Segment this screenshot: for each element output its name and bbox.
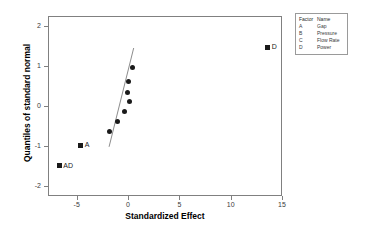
legend-row: CFlow Rate <box>299 37 344 44</box>
data-point <box>122 109 127 114</box>
legend-header-name: Name <box>317 16 344 23</box>
x-tick-label: 15 <box>270 201 294 208</box>
data-point-label: A <box>85 141 90 148</box>
y-axis-title: Quantiles of standard normal <box>22 13 32 193</box>
data-point-label: D <box>272 43 277 50</box>
x-tick <box>179 196 180 200</box>
x-tick <box>282 196 283 200</box>
legend-factor-name: Gap <box>317 23 344 30</box>
x-tick-label: -5 <box>65 201 89 208</box>
data-point <box>126 79 131 84</box>
y-tick <box>44 106 48 107</box>
factor-legend: Factor Name AGapBPressureCFlow RateDPowe… <box>295 13 348 55</box>
data-point <box>107 129 112 134</box>
legend-row: AGap <box>299 23 344 30</box>
legend-factor-code: D <box>299 44 317 51</box>
legend-factor-code: B <box>299 30 317 37</box>
legend-header-row: Factor Name <box>299 16 344 23</box>
y-tick <box>44 146 48 147</box>
legend-rows: AGapBPressureCFlow RateDPower <box>299 23 344 51</box>
legend-row: BPressure <box>299 30 344 37</box>
normal-probability-plot: ADAD -5051015 210-1-2 Standardized Effec… <box>0 0 372 241</box>
x-tick-label: 10 <box>219 201 243 208</box>
x-tick-label: 5 <box>167 201 191 208</box>
data-point <box>127 99 132 104</box>
x-tick <box>128 196 129 200</box>
y-tick <box>44 186 48 187</box>
legend-factor-name: Power <box>317 44 344 51</box>
data-point <box>125 90 130 95</box>
y-tick <box>44 26 48 27</box>
data-point <box>78 143 83 148</box>
legend-factor-code: A <box>299 23 317 30</box>
x-tick-label: 0 <box>116 201 140 208</box>
plot-area <box>48 16 282 196</box>
legend-factor-code: C <box>299 37 317 44</box>
legend-factor-name: Pressure <box>317 30 344 37</box>
y-tick <box>44 66 48 67</box>
data-point <box>265 45 270 50</box>
legend-header-factor: Factor <box>299 16 317 23</box>
x-tick <box>77 196 78 200</box>
legend-row: DPower <box>299 44 344 51</box>
x-axis-title: Standardized Effect <box>48 211 282 221</box>
data-point <box>115 119 120 124</box>
legend-factor-name: Flow Rate <box>317 37 344 44</box>
data-point-label: AD <box>63 162 73 169</box>
x-tick <box>231 196 232 200</box>
data-point <box>130 65 135 70</box>
data-point <box>57 163 62 168</box>
